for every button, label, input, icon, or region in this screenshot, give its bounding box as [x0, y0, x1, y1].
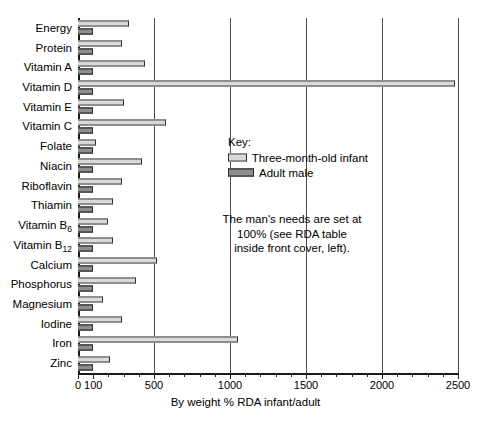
bar-infant-folate [78, 139, 96, 146]
bar-adult-calcium [78, 265, 93, 272]
legend-entry-adult: Adult male [228, 166, 368, 179]
x-tick-2100 [397, 373, 398, 377]
x-tick-1700 [336, 373, 337, 377]
x-tick-label-100: 100 [84, 379, 102, 391]
bar-adult-iron [78, 344, 93, 351]
category-label-calcium: Calcium [0, 259, 72, 271]
category-label-riboflavin: Riboflavin [0, 180, 72, 192]
plot-area [78, 18, 458, 373]
bar-adult-vitamin-b6 [78, 226, 93, 233]
category-label-thiamin: Thiamin [0, 199, 72, 211]
bar-infant-magnesium [78, 296, 103, 303]
category-label-vitamin-d: Vitamin D [0, 81, 72, 93]
bar-adult-iodine [78, 324, 93, 331]
bar-adult-thiamin [78, 206, 93, 213]
chart-note: The man's needs are set at 100% (see RDA… [222, 212, 362, 256]
bar-adult-vitamin-c [78, 127, 93, 134]
bar-infant-phosphorus [78, 277, 136, 284]
category-label-vitamin-e: Vitamin E [0, 101, 72, 113]
bar-adult-protein [78, 48, 93, 55]
x-tick-label-2000: 2000 [370, 379, 394, 391]
gridline-1500 [306, 18, 307, 373]
bar-infant-thiamin [78, 198, 113, 205]
category-label-vitamin-b12: Vitamin B12 [0, 239, 72, 255]
legend-swatch-infant-icon [228, 153, 247, 162]
x-tick-900 [215, 373, 216, 377]
x-tick-1300 [276, 373, 277, 377]
category-label-protein: Protein [0, 42, 72, 54]
x-tick-label-0: 0 [75, 379, 81, 391]
x-tick-label-500: 500 [145, 379, 163, 391]
gridline-2000 [382, 18, 383, 373]
bar-infant-vitamin-b12 [78, 237, 113, 244]
legend-title: Key: [228, 136, 368, 148]
bar-adult-vitamin-e [78, 107, 93, 114]
bar-infant-energy [78, 20, 129, 27]
x-tick-1800 [352, 373, 353, 377]
x-tick-2400 [443, 373, 444, 377]
bar-adult-phosphorus [78, 285, 93, 292]
bar-infant-vitamin-a [78, 60, 145, 67]
value-axis-line [78, 373, 459, 375]
category-label-vitamin-c: Vitamin C [0, 120, 72, 132]
bar-infant-protein [78, 40, 122, 47]
bar-infant-zinc [78, 356, 110, 363]
legend-swatch-adult-icon [228, 168, 254, 177]
chart-figure: 01005001000150020002500 EnergyProteinVit… [0, 0, 491, 424]
x-tick-1600 [321, 373, 322, 377]
bar-infant-iron [78, 336, 238, 343]
x-axis-title: By weight % RDA infant/adult [0, 396, 491, 408]
bar-adult-niacin [78, 166, 93, 173]
x-tick-label-1500: 1500 [294, 379, 318, 391]
bar-infant-riboflavin [78, 178, 122, 185]
x-tick-600 [169, 373, 170, 377]
bar-infant-iodine [78, 316, 122, 323]
gridline-500 [154, 18, 155, 373]
x-tick-1200 [260, 373, 261, 377]
bar-adult-zinc [78, 364, 93, 371]
bar-infant-vitamin-c [78, 119, 166, 126]
x-tick-label-1000: 1000 [218, 379, 242, 391]
chart-legend: Key: Three-month-old infant Adult male [228, 136, 368, 181]
category-label-magnesium: Magnesium [0, 298, 72, 310]
category-label-folate: Folate [0, 140, 72, 152]
category-label-zinc: Zinc [0, 357, 72, 369]
category-label-iron: Iron [0, 337, 72, 349]
bar-infant-vitamin-d [78, 80, 455, 87]
x-tick-700 [184, 373, 185, 377]
bar-adult-riboflavin [78, 186, 93, 193]
bar-adult-energy [78, 28, 93, 35]
x-tick-2300 [428, 373, 429, 377]
x-tick-800 [200, 373, 201, 377]
category-label-vitamin-a: Vitamin A [0, 61, 72, 73]
bar-infant-vitamin-e [78, 99, 124, 106]
x-tick-label-2500: 2500 [446, 379, 470, 391]
gridline-2500 [458, 18, 459, 373]
category-label-energy: Energy [0, 22, 72, 34]
legend-label-adult: Adult male [259, 167, 313, 179]
bar-adult-vitamin-b12 [78, 245, 93, 252]
bar-adult-magnesium [78, 304, 93, 311]
category-label-vitamin-b6: Vitamin B6 [0, 219, 72, 235]
x-tick-2200 [412, 373, 413, 377]
gridline-1000 [230, 18, 231, 373]
bar-infant-vitamin-b6 [78, 218, 108, 225]
bar-adult-folate [78, 147, 93, 154]
x-tick-300 [124, 373, 125, 377]
bar-adult-vitamin-d [78, 88, 93, 95]
bar-adult-vitamin-a [78, 68, 93, 75]
category-label-phosphorus: Phosphorus [0, 278, 72, 290]
bar-infant-calcium [78, 257, 157, 264]
x-tick-1900 [367, 373, 368, 377]
x-tick-200 [108, 373, 109, 377]
legend-label-infant: Three-month-old infant [252, 152, 368, 164]
x-tick-1100 [245, 373, 246, 377]
bar-infant-niacin [78, 158, 142, 165]
legend-entry-infant: Three-month-old infant [228, 151, 368, 164]
x-tick-400 [139, 373, 140, 377]
category-label-niacin: Niacin [0, 160, 72, 172]
category-label-iodine: Iodine [0, 318, 72, 330]
x-tick-1400 [291, 373, 292, 377]
